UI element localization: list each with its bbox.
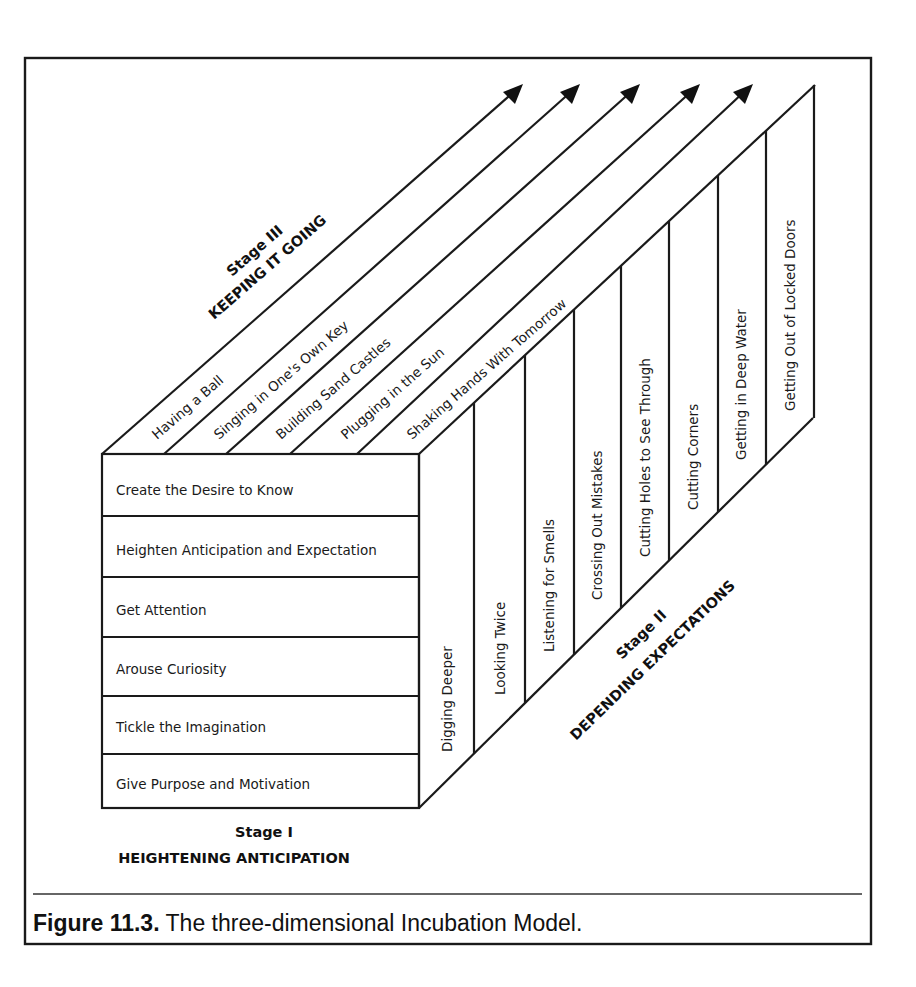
strip-arrow-line [357, 90, 746, 454]
stage2-column: Getting Out of Locked Doors [782, 219, 798, 411]
arrow-head-icon [733, 84, 753, 104]
figure-caption-text: The three-dimensional Incubation Model. [160, 910, 583, 936]
front-face-stage-1: Create the Desire to Know Heighten Antic… [102, 454, 419, 808]
arrow-head-icon [620, 84, 640, 104]
incubation-model-figure: Create the Desire to Know Heighten Antic… [0, 0, 916, 987]
figure-frame [25, 58, 871, 944]
stage1-row: Heighten Anticipation and Expectation [116, 542, 377, 558]
stage2-column: Getting in Deep Water [733, 309, 749, 460]
figure-caption-label: Figure 11.3. [33, 910, 160, 936]
bottom-right-edge [419, 418, 813, 808]
top-right-edge [419, 85, 815, 454]
stage2-subtitle: DEPENDING EXPECTATIONS [567, 577, 738, 743]
stage2-column: Digging Deeper [439, 646, 455, 752]
arrow-head-icon [680, 84, 700, 104]
top-face-stage-3: Having a Ball Singing in One's Own Key B… [102, 84, 815, 454]
strip-arrow-line [226, 90, 633, 454]
figure-caption: Figure 11.3. The three-dimensional Incub… [33, 910, 582, 936]
stage2-column: Listening for Smells [541, 519, 557, 652]
stage1-subtitle: HEIGHTENING ANTICIPATION [118, 850, 350, 866]
stage1-row: Give Purpose and Motivation [116, 776, 310, 792]
stage2-column: Cutting Holes to See Through [637, 358, 653, 557]
stage1-row: Create the Desire to Know [116, 482, 293, 498]
arrow-head-icon [503, 84, 523, 104]
stage3-strip: Building Sand Castles [272, 334, 393, 442]
stage1-row: Tickle the Imagination [115, 719, 266, 735]
strip-arrow-line [290, 90, 693, 454]
stage1-row: Get Attention [116, 602, 207, 618]
stage1-row: Arouse Curiosity [116, 661, 227, 677]
arrow-head-icon [560, 84, 580, 104]
stage2-column: Crossing Out Mistakes [589, 450, 605, 600]
stage1-title: Stage I [235, 824, 293, 840]
stage2-column: Looking Twice [492, 602, 508, 695]
strip-arrow-line [164, 90, 573, 454]
stage2-column: Cutting Corners [685, 404, 701, 510]
